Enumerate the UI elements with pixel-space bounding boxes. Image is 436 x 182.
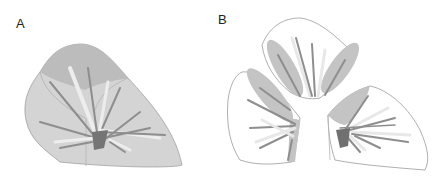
panel-b-segment-right	[328, 86, 428, 170]
lung-diagram	[0, 0, 436, 182]
panel-a-lobe	[25, 44, 182, 167]
